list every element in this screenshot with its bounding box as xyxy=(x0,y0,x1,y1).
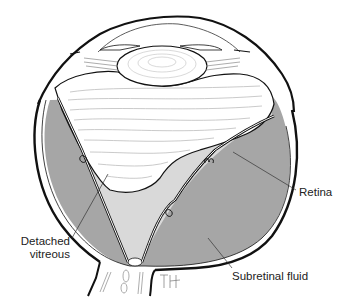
iris-left xyxy=(100,45,140,50)
optic-nerve-left xyxy=(88,262,100,296)
label-subretinal-fluid: Subretinal fluid xyxy=(232,270,308,283)
label-retina: Retina xyxy=(299,186,332,199)
eyelid-right xyxy=(234,50,250,52)
optic-nerve-fibers xyxy=(100,270,143,294)
label-detached-line2: vitreous xyxy=(8,248,70,261)
lens xyxy=(117,46,207,86)
eyeball xyxy=(35,72,297,296)
artist-signature xyxy=(160,275,180,288)
optic-disc xyxy=(128,258,142,266)
label-detached-line1: Detached xyxy=(8,235,70,248)
label-detached-vitreous: Detached vitreous xyxy=(8,235,70,261)
optic-nerve-right xyxy=(150,270,155,296)
